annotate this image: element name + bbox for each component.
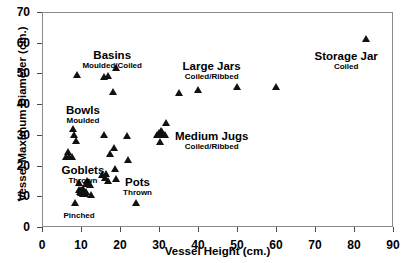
annotation-subtitle: Coiled bbox=[315, 62, 378, 72]
y-tick: 50 bbox=[37, 73, 42, 74]
annotation-title: Basins bbox=[82, 49, 142, 61]
annotation-title: Pots bbox=[123, 176, 152, 188]
data-point-marker bbox=[132, 199, 140, 206]
annotation-title: Bowls bbox=[66, 104, 100, 116]
annotation-goblets: GobletsThrown bbox=[62, 164, 105, 186]
data-point-marker bbox=[161, 131, 169, 138]
annotation-large-jars: Large JarsCoiled/Ribbed bbox=[183, 60, 241, 82]
data-point-marker bbox=[123, 132, 131, 139]
x-tick: 40 bbox=[198, 227, 199, 232]
annotation-basins: BasinsMoulded/Coiled bbox=[82, 49, 142, 71]
x-tick: 0 bbox=[42, 227, 43, 232]
data-point-marker bbox=[272, 83, 280, 90]
x-tick: 50 bbox=[237, 227, 238, 232]
annotation-medium-jugs: Medium JugsCoiled/Ribbed bbox=[175, 130, 248, 152]
data-point-marker bbox=[162, 119, 170, 126]
data-point-marker bbox=[109, 88, 117, 95]
y-tick: 20 bbox=[37, 166, 42, 167]
x-tick: 30 bbox=[159, 227, 160, 232]
annotation-pinched: Pinched bbox=[63, 211, 94, 221]
plot-area: 010203040506070 0102030405060708090 Basi… bbox=[42, 12, 393, 227]
data-point-marker bbox=[194, 86, 202, 93]
annotation-subtitle: Pinched bbox=[63, 211, 94, 221]
annotation-subtitle: Coiled/Ribbed bbox=[175, 142, 248, 152]
x-tick: 80 bbox=[354, 227, 355, 232]
annotation-pots: PotsThrown bbox=[123, 176, 152, 198]
data-point-marker bbox=[72, 137, 80, 144]
y-tick: 10 bbox=[37, 196, 42, 197]
data-point-marker bbox=[104, 177, 112, 184]
annotation-subtitle: Coiled/Ribbed bbox=[183, 72, 241, 82]
annotation-subtitle: Moulded bbox=[66, 116, 100, 126]
y-tick: 60 bbox=[37, 43, 42, 44]
annotation-subtitle: Thrown bbox=[62, 176, 105, 186]
x-tick: 60 bbox=[276, 227, 277, 232]
y-tick: 30 bbox=[37, 135, 42, 136]
data-point-marker bbox=[100, 131, 108, 138]
annotation-title: Large Jars bbox=[183, 60, 241, 72]
data-point-marker bbox=[156, 138, 164, 145]
scatter-chart: 010203040506070 0102030405060708090 Basi… bbox=[0, 0, 407, 263]
data-point-marker bbox=[124, 156, 132, 163]
y-tick: 70 bbox=[37, 12, 42, 13]
x-axis-label: Vessel Height (cm.) bbox=[42, 245, 393, 257]
x-tick: 70 bbox=[315, 227, 316, 232]
x-tick: 10 bbox=[81, 227, 82, 232]
annotation-storage-jar: Storage JarCoiled bbox=[315, 50, 378, 72]
data-point-marker bbox=[87, 191, 95, 198]
data-point-marker bbox=[104, 72, 112, 79]
y-axis-label: Vessel Maximum Diameter (cm.) bbox=[16, 7, 28, 222]
data-point-marker bbox=[110, 144, 118, 151]
annotation-bowls: BowlsMoulded bbox=[66, 104, 100, 126]
y-tick: 40 bbox=[37, 104, 42, 105]
data-point-marker bbox=[111, 165, 119, 172]
data-point-marker bbox=[362, 35, 370, 42]
annotation-subtitle: Moulded/Coiled bbox=[82, 61, 142, 71]
data-point-marker bbox=[73, 71, 81, 78]
annotation-subtitle: Thrown bbox=[123, 188, 152, 198]
y-tick-label: 0 bbox=[23, 220, 30, 234]
data-point-marker bbox=[68, 153, 76, 160]
data-point-marker bbox=[175, 89, 183, 96]
data-point-marker bbox=[233, 83, 241, 90]
data-point-marker bbox=[71, 199, 79, 206]
annotation-title: Goblets bbox=[62, 164, 105, 176]
data-point-marker bbox=[112, 175, 120, 182]
x-tick: 20 bbox=[120, 227, 121, 232]
annotation-title: Storage Jar bbox=[315, 50, 378, 62]
annotation-title: Medium Jugs bbox=[175, 130, 248, 142]
x-tick: 90 bbox=[393, 227, 394, 232]
